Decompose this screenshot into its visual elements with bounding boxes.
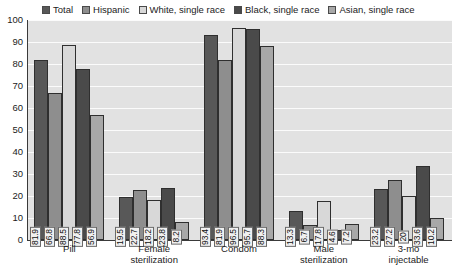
chart-screenshot: TotalHispanicWhite, single raceBlack, si… [0, 0, 457, 275]
y-tick-label: 70 [0, 81, 23, 91]
x-category-label-line: Condom [197, 243, 282, 254]
bar[interactable]: 10.2 [430, 218, 444, 240]
bar[interactable]: 81.9 [34, 60, 48, 240]
bar[interactable]: 88.5 [62, 45, 76, 240]
legend-swatch-icon [82, 6, 90, 14]
legend-entry[interactable]: Total [42, 5, 73, 15]
bar-group: 19.522.718.223.88.2 [112, 20, 197, 240]
y-axis: 1009080706050403020100 [0, 20, 23, 241]
legend-swatch-icon [139, 6, 147, 14]
y-tick-label: 0 [0, 235, 23, 245]
bar[interactable]: 95.7 [246, 29, 260, 240]
bar[interactable]: 8.2 [175, 222, 189, 240]
legend-entry[interactable]: Asian, single race [328, 5, 414, 15]
x-category-label: 3-moinjectable [366, 243, 451, 265]
legend-swatch-icon [234, 6, 242, 14]
x-category-label: Pill [27, 243, 112, 254]
legend-entry[interactable]: Hispanic [82, 5, 129, 15]
bar[interactable]: 56.9 [90, 115, 104, 240]
bar-group: 13.36.717.84.67.2 [281, 20, 366, 240]
chart-legend: TotalHispanicWhite, single raceBlack, si… [42, 2, 454, 17]
x-category-label-line: injectable [366, 254, 451, 265]
y-tick-label: 30 [0, 169, 23, 179]
bar[interactable]: 77.8 [76, 69, 90, 240]
bar[interactable]: 93.4 [204, 35, 218, 240]
x-category-label-line: sterilization [281, 254, 366, 265]
x-axis: PillFemalesterilizationCondomMalesterili… [27, 243, 451, 275]
legend-swatch-icon [328, 6, 336, 14]
x-category-label-line: 3-mo [366, 243, 451, 254]
bar[interactable]: 88.3 [260, 46, 274, 240]
bar[interactable]: 66.8 [48, 93, 62, 240]
legend-label: Total [53, 5, 73, 15]
y-tick-label: 90 [0, 37, 23, 47]
bars-layer: 81.966.888.577.856.919.522.718.223.88.29… [27, 20, 451, 240]
y-tick-label: 20 [0, 191, 23, 201]
x-category-label-line: Male [281, 243, 366, 254]
y-tick-label: 40 [0, 147, 23, 157]
legend-label: White, single race [150, 5, 226, 15]
legend-label: Black, single race [245, 5, 319, 15]
x-category-label-line: sterilization [112, 254, 197, 265]
bar[interactable]: 7.2 [345, 224, 359, 240]
y-tick-label: 60 [0, 103, 23, 113]
legend-entry[interactable]: Black, single race [234, 5, 319, 15]
y-tick-label: 10 [0, 213, 23, 223]
bar[interactable]: 96.5 [232, 28, 246, 240]
y-tick-label: 100 [0, 15, 23, 25]
x-category-label: Malesterilization [281, 243, 366, 265]
y-tick-label: 50 [0, 125, 23, 135]
bar-group: 23.227.22033.610.2 [366, 20, 451, 240]
x-category-label: Condom [197, 243, 282, 254]
bar-group: 81.966.888.577.856.9 [27, 20, 112, 240]
x-category-label-line: Female [112, 243, 197, 254]
legend-label: Asian, single race [339, 5, 414, 15]
x-category-label: Femalesterilization [112, 243, 197, 265]
y-tick-label: 80 [0, 59, 23, 69]
x-category-label-line: Pill [27, 243, 112, 254]
legend-swatch-icon [42, 6, 50, 14]
bar-group: 93.481.996.595.788.3 [197, 20, 282, 240]
bar[interactable]: 81.9 [218, 60, 232, 240]
legend-label: Hispanic [93, 5, 129, 15]
legend-entry[interactable]: White, single race [139, 5, 226, 15]
bar-value-label: 20 [398, 230, 409, 243]
